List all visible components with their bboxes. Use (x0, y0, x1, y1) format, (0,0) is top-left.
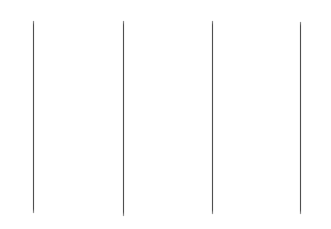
vertical-line-4 (300, 22, 301, 214)
figure-canvas (0, 0, 331, 229)
vertical-line-1 (33, 21, 34, 213)
vertical-line-2 (123, 21, 124, 216)
vertical-line-3 (212, 21, 213, 214)
